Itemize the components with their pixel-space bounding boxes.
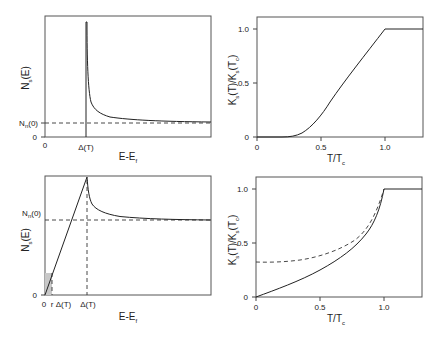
y-tick-label-0: 0 <box>245 133 250 142</box>
x-tick-label-0: 0 <box>254 303 259 312</box>
x-axis-label: T/Tc <box>327 153 345 166</box>
y-tick-label-0: 0 <box>33 133 38 142</box>
x-axis-label: T/Tc <box>327 313 345 326</box>
x-tick-label-delta: Δ(T) <box>80 300 96 309</box>
dwave-dos-curve <box>45 177 211 295</box>
x-tick-label-0: 0 <box>42 300 47 309</box>
panel-bottom-left-dos-dwave: 0 Nn(0) 0 r Δ(T) Δ(T) E-Ef Ns(E) <box>20 176 211 324</box>
figure: 0 Nn(0) 0 Δ(T) E-Ef Ns(E) 0 0.5 1.0 0 0.… <box>0 0 443 338</box>
x-tick-label-05: 0.5 <box>314 303 326 312</box>
dwave-knight-shift-curve <box>256 189 422 297</box>
y-axis-label: Ns(E) <box>20 66 33 90</box>
x-tick-label-0: 0 <box>43 141 48 150</box>
plot-frame <box>257 17 423 137</box>
plot-frame <box>45 176 211 295</box>
x-tick-label-delta: Δ(T) <box>78 143 94 152</box>
x-tick-label-10: 1.0 <box>378 303 390 312</box>
x-tick-label-r-delta: r Δ(T) <box>51 300 72 309</box>
y-tick-label-10: 1.0 <box>238 25 250 34</box>
y-axis-label: Ns(E) <box>20 228 33 252</box>
knight-shift-curve <box>257 29 423 137</box>
y-tick-label-nn: Nn(0) <box>22 209 41 219</box>
x-tick-label-05: 0.5 <box>315 143 327 152</box>
x-tick-label-10: 1.0 <box>379 143 391 152</box>
x-axis-label: E-Ef <box>119 311 138 324</box>
y-tick-label-nn: Nn(0) <box>19 119 38 129</box>
panel-bottom-right-knight-shift-d: 0 0.5 1.0 0 0.5 1.0 T/Tc Ks(T)/Ks(Tc) <box>227 177 422 326</box>
x-tick-label-0: 0 <box>255 143 260 152</box>
residual-knight-shift-curve <box>256 189 384 262</box>
panel-top-left-dos-bcs: 0 Nn(0) 0 Δ(T) E-Ef Ns(E) <box>19 16 211 164</box>
plot-frame <box>256 177 422 297</box>
y-tick-label-0: 0 <box>33 291 38 300</box>
y-tick-label-05: 0.5 <box>238 79 250 88</box>
y-tick-label-0: 0 <box>244 293 249 302</box>
panel-top-right-knight-shift-s: 0 0.5 1.0 0 0.5 1.0 T/Tc Ks(T)/Ks(Tc) <box>227 17 423 166</box>
y-tick-label-05: 0.5 <box>237 239 249 248</box>
bcs-dos-curve <box>86 22 211 137</box>
x-axis-label: E-Ef <box>119 151 138 164</box>
y-tick-label-10: 1.0 <box>237 185 249 194</box>
